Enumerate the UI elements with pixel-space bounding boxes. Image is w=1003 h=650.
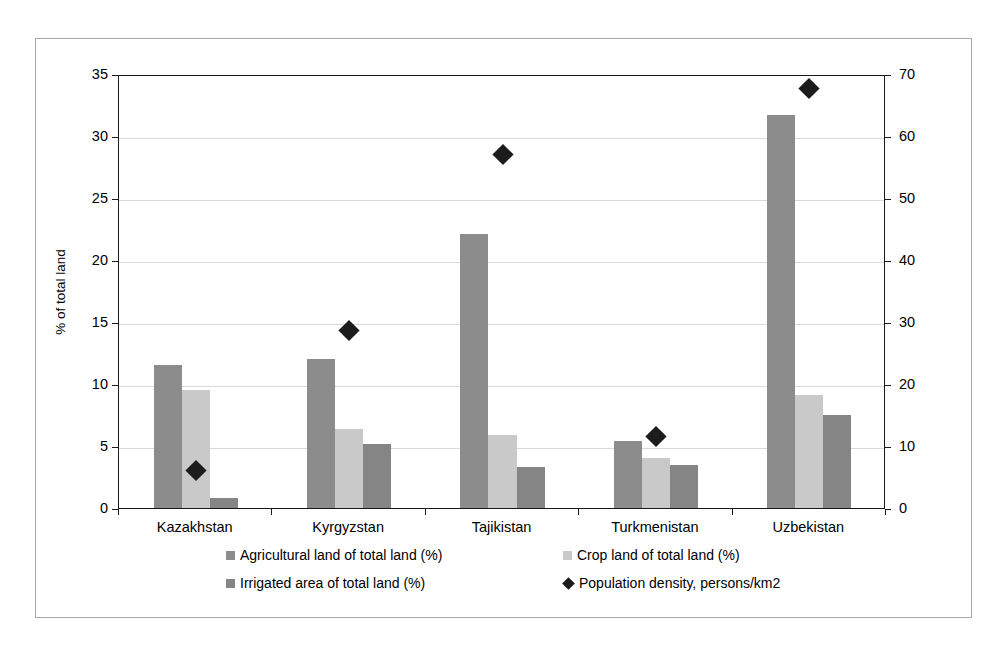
x-axis-tickmark [118, 509, 119, 515]
y-axis-left-tickmark [112, 261, 118, 262]
x-axis-tickmark [732, 509, 733, 515]
bar [488, 435, 516, 508]
bar [642, 458, 670, 508]
chart-figure: % of total land Population density, pers… [36, 39, 973, 619]
legend-square-icon [226, 579, 235, 588]
y-axis-left-tickmark [112, 199, 118, 200]
y-axis-right-tick-label: 40 [899, 253, 915, 268]
bar [182, 390, 210, 508]
y-axis-right-tick-label: 60 [899, 129, 915, 144]
legend-diamond-icon [562, 577, 575, 590]
y-axis-right-tickmark [885, 323, 891, 324]
y-axis-right-tick-label: 10 [899, 439, 915, 454]
y-axis-left-tickmark [112, 385, 118, 386]
legend-item-label: Population density, persons/km2 [579, 575, 780, 591]
x-axis-category-label: Kazakhstan [157, 519, 233, 535]
y-axis-left-tickmark [112, 137, 118, 138]
bar [307, 359, 335, 508]
y-axis-right-tickmark [885, 261, 891, 262]
bar [670, 465, 698, 508]
y-axis-left-tick-label: 10 [36, 377, 108, 392]
bar [517, 467, 545, 508]
y-axis-right-tickmark [885, 75, 891, 76]
y-axis-left-tick-label: 30 [36, 129, 108, 144]
y-axis-right-tick-label: 70 [899, 67, 915, 82]
y-axis-left-tick-label: 25 [36, 191, 108, 206]
y-axis-left-tick-label: 0 [36, 501, 108, 516]
bar [795, 395, 823, 508]
y-axis-left-tick-label: 20 [36, 253, 108, 268]
bar [767, 115, 795, 508]
legend-item-label: Crop land of total land (%) [577, 547, 740, 563]
figure-border: % of total land Population density, pers… [35, 38, 972, 618]
y-axis-right-tick-label: 20 [899, 377, 915, 392]
y-axis-left-tickmark [112, 447, 118, 448]
y-axis-right-tickmark [885, 137, 891, 138]
x-axis-tickmark [271, 509, 272, 515]
x-axis-tickmark [578, 509, 579, 515]
x-axis-category-label: Uzbekistan [772, 519, 844, 535]
bar [460, 234, 488, 508]
x-axis-tickmark [425, 509, 426, 515]
x-axis-tickmark [885, 509, 886, 515]
y-axis-right-tick-label: 30 [899, 315, 915, 330]
data-point-marker [492, 144, 513, 165]
y-axis-right-tick-label: 0 [899, 501, 907, 516]
legend-square-icon [563, 551, 572, 560]
data-point-marker [645, 426, 666, 447]
legend-item-label: Agricultural land of total land (%) [240, 547, 442, 563]
y-axis-left-tick-label: 15 [36, 315, 108, 330]
chart-legend: Agricultural land of total land (%)Crop … [226, 547, 926, 603]
legend-item[interactable]: Agricultural land of total land (%) [226, 547, 442, 563]
y-axis-left-tickmark [112, 75, 118, 76]
x-axis-category-label: Tajikistan [472, 519, 532, 535]
bar [363, 444, 391, 508]
legend-item[interactable]: Crop land of total land (%) [563, 547, 740, 563]
chart-page: % of total land Population density, pers… [0, 0, 1003, 650]
bar [335, 429, 363, 508]
y-axis-left-tickmark [112, 323, 118, 324]
y-axis-right-tickmark [885, 199, 891, 200]
y-axis-right-tickmark [885, 447, 891, 448]
bar [823, 415, 851, 508]
legend-square-icon [226, 551, 235, 560]
y-axis-left-tick-label: 5 [36, 439, 108, 454]
data-point-marker [799, 78, 820, 99]
legend-item[interactable]: Irrigated area of total land (%) [226, 575, 425, 591]
x-axis-category-label: Turkmenistan [611, 519, 698, 535]
bar [154, 365, 182, 508]
y-axis-right-tickmark [885, 385, 891, 386]
y-axis-right-tick-label: 50 [899, 191, 915, 206]
plot-area [118, 75, 885, 509]
y-axis-left-tick-label: 35 [36, 67, 108, 82]
legend-item-label: Irrigated area of total land (%) [240, 575, 425, 591]
bar [210, 498, 238, 508]
x-axis-category-label: Kyrgyzstan [312, 519, 384, 535]
x-axis-categories: KazakhstanKyrgyzstanTajikistanTurkmenist… [118, 509, 885, 549]
bar [614, 441, 642, 508]
data-point-marker [338, 320, 359, 341]
legend-item[interactable]: Population density, persons/km2 [563, 575, 780, 591]
